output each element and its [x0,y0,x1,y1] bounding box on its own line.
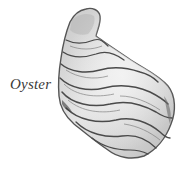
oyster-shell-icon [0,0,184,170]
oyster-illustration: Oyster [0,0,184,170]
